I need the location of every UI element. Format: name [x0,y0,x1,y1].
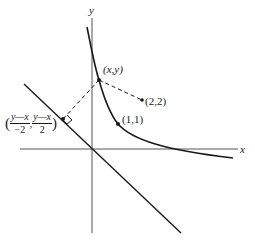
diagram-canvas: y x (x,y) (2,2) (1,1) ( y—x −2 , y—x 2 ) [0,0,255,246]
fraction-y-numerator: y—x [32,112,52,124]
point-foot-dot [61,117,65,121]
point-xy-label: (x,y) [103,64,123,75]
point-2-2-dot [140,98,144,102]
x-axis-label: x [240,144,245,155]
curve [87,27,233,158]
fraction-y-denominator: 2 [40,124,45,135]
point-2-2-label: (2,2) [145,96,166,107]
point-xy-dot [97,78,101,82]
point-foot-label: ( y—x −2 , y—x 2 ) [5,112,57,135]
point-1-1-label: (1,1) [122,114,143,125]
fraction-x-numerator: y—x [10,112,30,124]
fraction-x: y—x −2 [10,112,30,135]
point-1-1-dot [116,122,120,126]
dashed-to-2-2 [99,80,142,100]
close-paren: ) [52,116,57,131]
dashed-perpendicular [63,80,99,119]
fraction-y: y—x 2 [32,112,52,135]
y-axis-label: y [89,5,94,16]
fraction-x-denominator: −2 [15,124,26,135]
